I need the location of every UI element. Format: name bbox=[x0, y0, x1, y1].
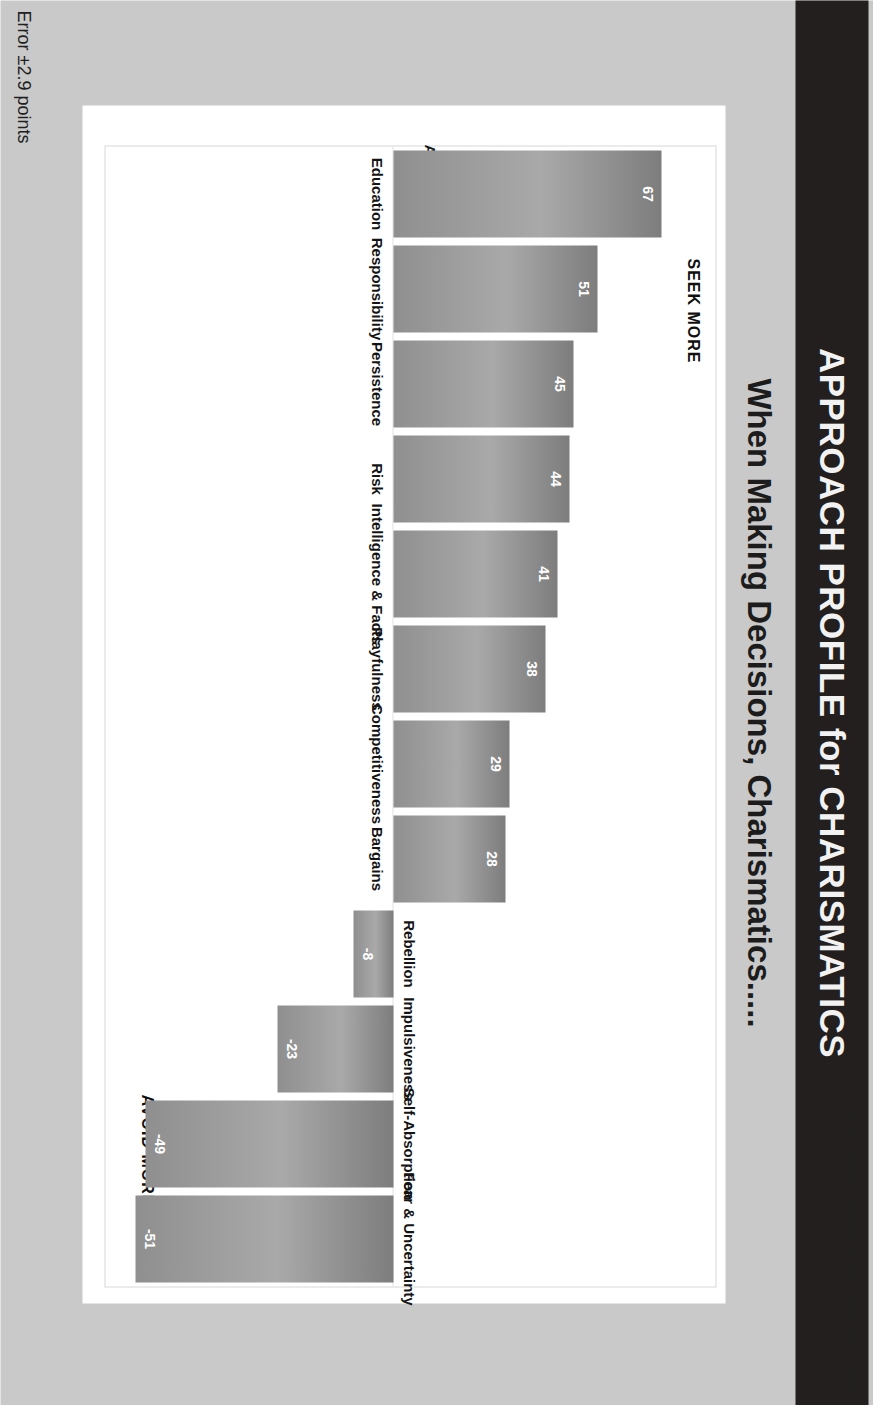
bar-value-label: 51 bbox=[575, 245, 591, 332]
bar: -23 bbox=[277, 1005, 393, 1092]
chart-card: Average SEEK MORE AVOID MORE 67Education… bbox=[82, 105, 725, 1303]
bar-group: 51Responsibility bbox=[104, 245, 715, 332]
bar-value-label: 44 bbox=[547, 435, 563, 522]
footer-copyright: © 2003 Miller-Williams Inc. (millwill.co… bbox=[835, 705, 865, 1405]
scanned-page: APPROACH PROFILE for CHARISMATICS When M… bbox=[0, 0, 873, 1405]
bar: 41 bbox=[393, 530, 557, 617]
category-label: Intelligence & Facts bbox=[368, 503, 385, 644]
bar: -49 bbox=[145, 1100, 393, 1187]
bar-chart-plot: Average SEEK MORE AVOID MORE 67Education… bbox=[104, 146, 715, 1286]
category-label: Impulsiveness bbox=[400, 997, 417, 1100]
bar-group: 38Playfulness bbox=[104, 625, 715, 712]
bar-value-label: 28 bbox=[483, 815, 499, 902]
bar-value-label: -49 bbox=[151, 1100, 167, 1187]
bar-value-label: 41 bbox=[535, 530, 551, 617]
bar: 38 bbox=[393, 625, 545, 712]
bar-group: 41Intelligence & Facts bbox=[104, 530, 715, 617]
bar: -51 bbox=[135, 1195, 393, 1282]
bar-group: 29Competitiveness bbox=[104, 720, 715, 807]
bar: 67 bbox=[393, 150, 661, 237]
error-note-text: Error ±2.9 points bbox=[13, 0, 34, 143]
bar: 44 bbox=[393, 435, 569, 522]
bar: 51 bbox=[393, 245, 597, 332]
bar-value-label: 29 bbox=[487, 720, 503, 807]
bar: 45 bbox=[393, 340, 573, 427]
category-label: Education bbox=[368, 157, 385, 230]
category-label: Competitiveness bbox=[368, 703, 385, 823]
category-label: Bargains bbox=[368, 826, 385, 890]
bar-value-label: -8 bbox=[359, 910, 375, 997]
bar: 28 bbox=[393, 815, 505, 902]
category-label: Responsibility bbox=[368, 237, 385, 340]
bar-group: 28Bargains bbox=[104, 815, 715, 902]
bar-group: -8Rebellion bbox=[104, 910, 715, 997]
category-label: Risk bbox=[368, 463, 385, 495]
slide-subtitle: When Making Decisions, Charismatics..... bbox=[739, 378, 777, 1027]
bar-group: 67Education bbox=[104, 150, 715, 237]
bar-value-label: -23 bbox=[283, 1005, 299, 1092]
bar-value-label: -51 bbox=[141, 1195, 157, 1282]
category-label: Fear & Uncertainty bbox=[400, 1172, 417, 1305]
copyright-text: © 2003 Miller-Williams Inc. (millwill.co… bbox=[840, 1090, 860, 1405]
bar: 29 bbox=[393, 720, 509, 807]
bar-group: -51Fear & Uncertainty bbox=[104, 1195, 715, 1282]
bar-value-label: 45 bbox=[551, 340, 567, 427]
bar-group: 44Risk bbox=[104, 435, 715, 522]
bar: -8 bbox=[353, 910, 393, 997]
category-label: Playfulness bbox=[368, 627, 385, 710]
presentation-slide: APPROACH PROFILE for CHARISMATICS When M… bbox=[0, 0, 873, 1405]
bar-group: -23Impulsiveness bbox=[104, 1005, 715, 1092]
bar-value-label: 38 bbox=[523, 625, 539, 712]
bar-value-label: 67 bbox=[639, 150, 655, 237]
bar-group: 45Persistence bbox=[104, 340, 715, 427]
category-label: Rebellion bbox=[400, 920, 417, 988]
category-label: Persistence bbox=[368, 341, 385, 425]
slide-subtitle-row: When Making Decisions, Charismatics..... bbox=[729, 0, 787, 1405]
footer-error-note: Error ±2.9 points bbox=[8, 0, 38, 700]
